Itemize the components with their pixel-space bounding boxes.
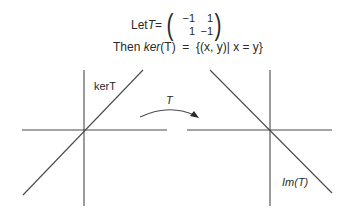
kernel-line [23, 70, 143, 195]
image-label: Im(T) [282, 176, 308, 188]
image-line [210, 70, 332, 193]
arrow-head-icon [190, 111, 199, 118]
mapping-arrow [140, 110, 196, 117]
arrow-label: T [166, 94, 173, 106]
kernel-label: kerT [94, 80, 116, 92]
